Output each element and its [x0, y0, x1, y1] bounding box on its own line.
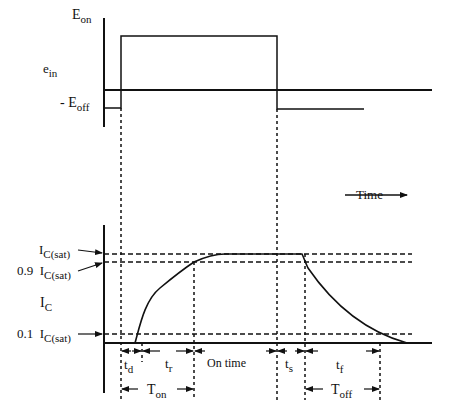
- tf-label: tf: [336, 358, 343, 375]
- ts-label: ts: [285, 357, 293, 374]
- e-off-label: - Eoff: [60, 96, 89, 113]
- ic-axis-label: IC: [40, 296, 52, 313]
- ic-sat-label: IC(sat): [39, 243, 70, 260]
- e-in-axis-label: ein: [43, 62, 57, 79]
- ic-curve: [135, 254, 407, 343]
- td-label: td: [124, 358, 133, 375]
- t-off-label: Toff: [331, 383, 352, 400]
- ic-09-label: 0.9 IC(sat): [17, 264, 71, 281]
- on-time-label: On time: [207, 357, 246, 369]
- ic-01-label: 0.1 IC(sat): [17, 327, 71, 344]
- input-pulse: [104, 36, 364, 109]
- tr-label: tr: [165, 357, 172, 374]
- e-on-label: Eon: [72, 8, 92, 25]
- time-axis-label: Time: [356, 188, 383, 201]
- t-on-label: Ton: [147, 383, 167, 400]
